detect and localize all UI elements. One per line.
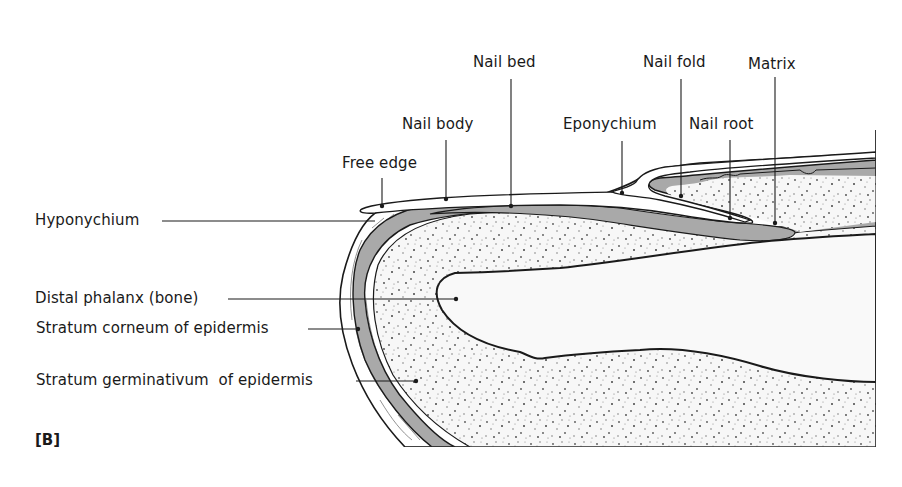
label-matrix: Matrix <box>748 57 796 72</box>
label-distal-phalanx: Distal phalanx (bone) <box>35 291 199 306</box>
label-hyponychium: Hyponychium <box>35 213 139 228</box>
label-stratum-germinativum: Stratum germinativum of epidermis <box>36 373 313 388</box>
label-nail-fold: Nail fold <box>643 55 706 70</box>
label-eponychium: Eponychium <box>563 117 657 132</box>
label-stratum-corneum: Stratum corneum of epidermis <box>36 321 269 336</box>
label-nail-bed: Nail bed <box>473 55 536 70</box>
panel-tag: [B] <box>35 433 60 448</box>
nail-anatomy-diagram <box>0 0 902 487</box>
label-nail-root: Nail root <box>689 117 754 132</box>
label-free-edge: Free edge <box>342 156 417 171</box>
label-nail-body: Nail body <box>402 117 474 132</box>
